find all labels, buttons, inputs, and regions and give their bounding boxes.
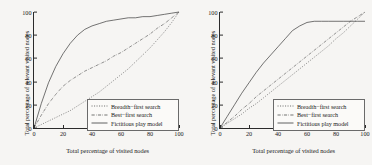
legend-item-best-first-search: Best−first search — [91, 111, 175, 120]
x-tick-label: 0 — [218, 128, 221, 137]
legend-label: Best−first search — [111, 111, 152, 118]
legend-item-fictitious-play-model: Fictitious play model — [277, 119, 361, 128]
y-tick-label: 80 — [25, 32, 34, 39]
legend: Breadth−first search Best−first search F… — [87, 99, 179, 131]
figure-two-panel-line-charts: Total percentage of relevant visited nod… — [0, 0, 372, 165]
legend-item-breadth-first-search: Breadth−first search — [277, 102, 361, 111]
y-tick-label: 20 — [25, 101, 34, 108]
legend-line-solid-icon — [91, 119, 108, 127]
legend-label: Breadth−first search — [297, 103, 346, 110]
legend-item-best-first-search: Best−first search — [277, 111, 361, 120]
y-tick-label: 60 — [211, 55, 220, 62]
x-tick-label: 0 — [32, 128, 35, 137]
legend-item-fictitious-play-model: Fictitious play model — [91, 119, 175, 128]
legend-line-solid-icon — [277, 119, 294, 127]
legend-line-dashdot-icon — [277, 111, 294, 119]
y-tick-label: 100 — [22, 9, 34, 16]
legend-label: Best−first search — [297, 111, 338, 118]
x-axis-label: Total percentage of visited nodes — [219, 147, 368, 154]
y-tick-label: 60 — [25, 55, 34, 62]
legend-label: Breadth−first search — [111, 103, 160, 110]
y-tick-label: 20 — [211, 101, 220, 108]
legend-line-dotted-icon — [91, 102, 108, 110]
y-tick-label: 80 — [211, 32, 220, 39]
legend-line-dotted-icon — [277, 102, 294, 110]
legend: Breadth−first search Best−first search F… — [273, 99, 365, 131]
right-panel: Total percentage of relevant visited nod… — [186, 0, 372, 165]
y-tick-label: 40 — [211, 78, 220, 85]
x-tick-label: 20 — [60, 128, 66, 137]
legend-item-breadth-first-search: Breadth−first search — [91, 102, 175, 111]
legend-label: Fictitious play model — [297, 120, 349, 127]
y-tick-label: 40 — [25, 78, 34, 85]
legend-label: Fictitious play model — [111, 120, 163, 127]
left-panel: Total percentage of relevant visited nod… — [0, 0, 186, 165]
y-tick-label: 100 — [208, 9, 220, 16]
x-axis-label: Total percentage of visited nodes — [33, 147, 182, 154]
legend-line-dashdot-icon — [91, 111, 108, 119]
x-tick-label: 20 — [246, 128, 252, 137]
